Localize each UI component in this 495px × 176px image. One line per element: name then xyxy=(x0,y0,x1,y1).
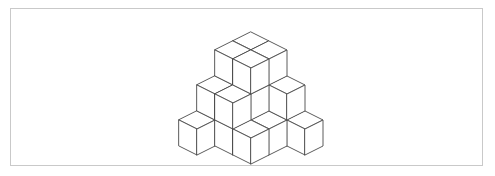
isometric-cube-stack-figure xyxy=(0,0,495,176)
cube xyxy=(233,50,269,94)
screenshot-canvas xyxy=(0,0,495,176)
cube-group xyxy=(179,32,323,164)
